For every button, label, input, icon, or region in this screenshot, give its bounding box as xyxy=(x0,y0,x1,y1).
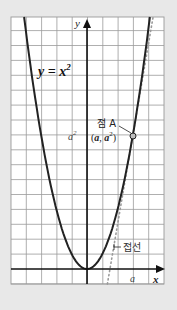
y-axis-label: y xyxy=(74,17,80,29)
point-a-name-label: 점 A xyxy=(97,118,116,129)
point-a-marker xyxy=(130,133,136,139)
parabola-tangent-diagram: y x y = x2 점 A a2 (a, a2) 접선 a xyxy=(0,0,177,310)
a-tick-label: a xyxy=(130,273,135,284)
point-a-coordinate-label: (a, a2) xyxy=(91,130,116,144)
tangent-label: 접선 xyxy=(123,242,141,253)
x-axis-label: x xyxy=(152,273,159,285)
curve-equation-label: y = x2 xyxy=(36,62,71,79)
